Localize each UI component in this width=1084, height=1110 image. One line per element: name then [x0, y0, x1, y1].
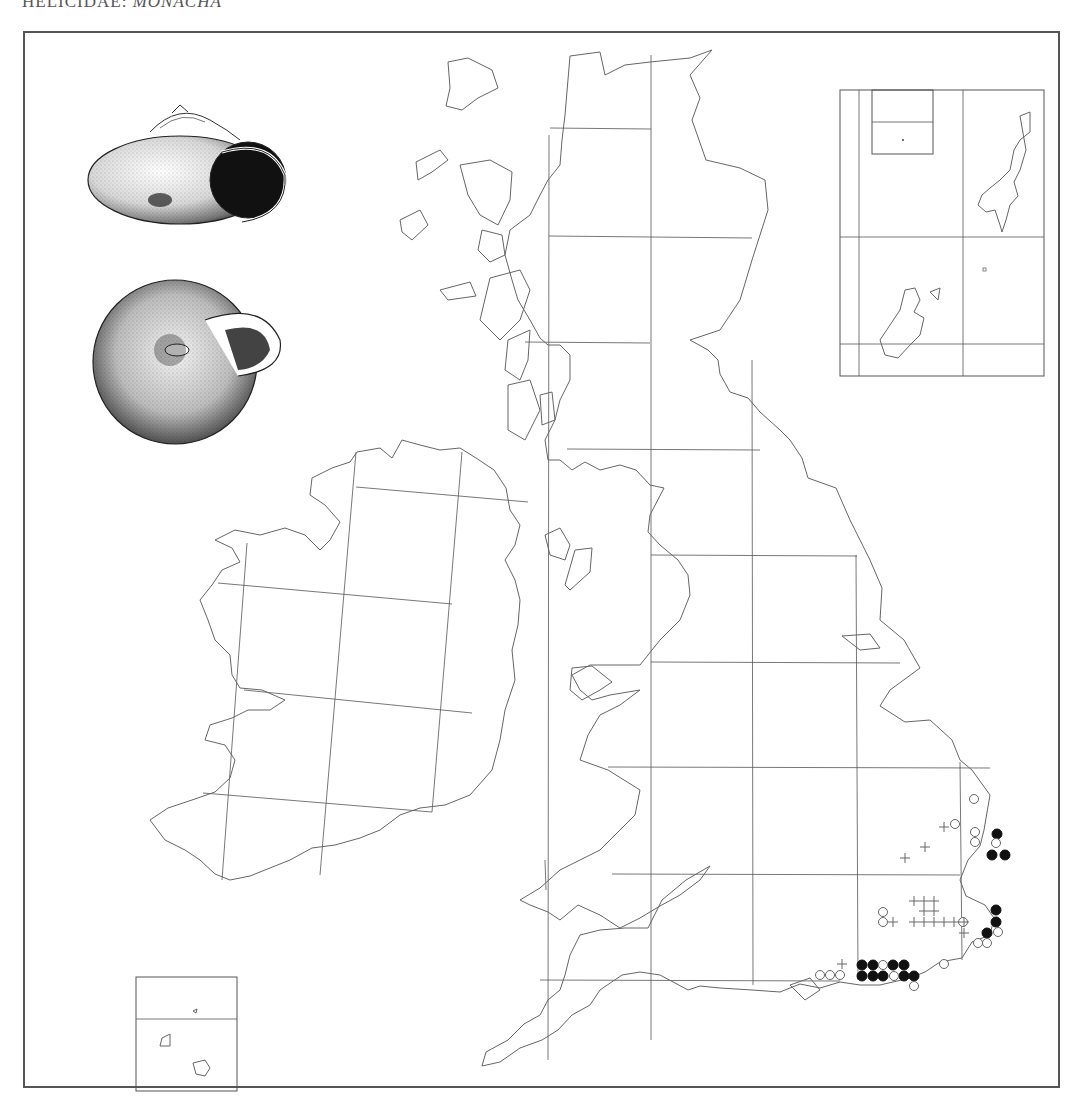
record-cross [929, 906, 939, 916]
record-filled-circle [888, 960, 898, 970]
record-filled-circle [868, 960, 878, 970]
coastline-ireland [150, 440, 570, 880]
distribution-map [0, 0, 1084, 1110]
record-cross [919, 896, 929, 906]
record-open-circle [974, 939, 983, 948]
records-open-circles [816, 795, 1003, 991]
record-cross [920, 842, 930, 852]
shell-side-view-illustration [88, 105, 286, 224]
record-open-circle [826, 971, 835, 980]
record-open-circle [879, 961, 888, 970]
record-open-circle [836, 971, 845, 980]
coastline-great-britain [400, 50, 994, 1066]
inset-orkney-shetland [840, 90, 1044, 376]
record-cross [929, 917, 939, 927]
map-grid [203, 55, 990, 1060]
record-open-circle [951, 820, 960, 829]
shell-umbilical-view-illustration [93, 280, 280, 444]
record-open-circle [910, 982, 919, 991]
record-filled-circle [987, 850, 997, 860]
record-filled-circle [992, 829, 1002, 839]
record-open-circle [890, 972, 899, 981]
record-open-circle [879, 908, 888, 917]
record-cross [929, 896, 939, 906]
record-filled-circle [899, 960, 909, 970]
record-open-circle [940, 960, 949, 969]
record-cross [949, 917, 959, 927]
record-cross [939, 917, 949, 927]
record-open-circle [994, 928, 1003, 937]
record-filled-circle [991, 917, 1001, 927]
record-open-circle [816, 971, 825, 980]
record-cross [959, 928, 969, 938]
record-filled-circle [878, 971, 888, 981]
inset-channel-islands [136, 977, 237, 1091]
record-filled-circle [909, 971, 919, 981]
record-cross [900, 853, 910, 863]
record-open-circle [971, 828, 980, 837]
record-cross [888, 917, 898, 927]
record-cross [919, 917, 929, 927]
record-cross [837, 959, 847, 969]
record-cross [939, 822, 949, 832]
record-filled-circle [991, 905, 1001, 915]
record-open-circle [970, 795, 979, 804]
record-cross [909, 896, 919, 906]
record-filled-circle [868, 971, 878, 981]
record-open-circle [983, 939, 992, 948]
record-cross [909, 917, 919, 927]
record-filled-circle [982, 928, 992, 938]
record-open-circle [992, 839, 1001, 848]
record-open-circle [971, 838, 980, 847]
record-cross [919, 906, 929, 916]
record-filled-circle [1000, 850, 1010, 860]
record-open-circle [879, 918, 888, 927]
record-filled-circle [899, 971, 909, 981]
record-filled-circle [857, 971, 867, 981]
records-crosses [837, 822, 969, 969]
record-filled-circle [857, 960, 867, 970]
